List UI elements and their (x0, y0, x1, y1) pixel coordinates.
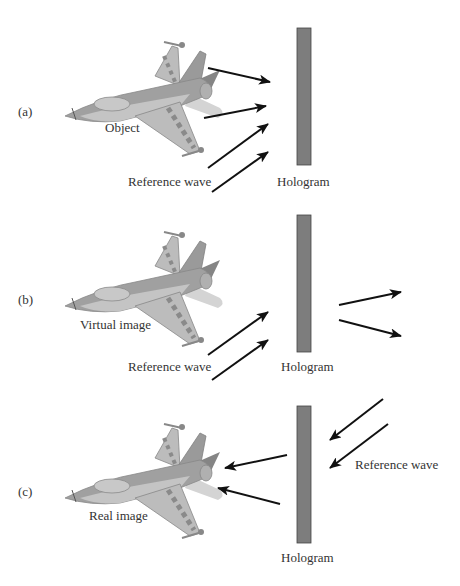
holography-diagram: (a) Object Reference wave Hologram (b) V… (0, 0, 460, 586)
reference-wave-label: Reference wave (128, 359, 212, 374)
object-airplane (65, 42, 223, 156)
hologram-plate (297, 215, 311, 352)
reference-wave-label: Reference wave (128, 174, 212, 189)
reference-wave-label: Reference wave (355, 457, 439, 472)
panel-tag: (a) (18, 104, 32, 119)
real-image-label: Real image (89, 508, 148, 523)
hologram-label: Hologram (277, 174, 330, 189)
diffracted-wave-arrows (339, 292, 401, 336)
reconstructed-wave-arrows (218, 455, 287, 504)
panel-c: (c) Real image Hologram Reference wave (18, 399, 439, 565)
virtual-image-label: Virtual image (80, 317, 151, 332)
hologram-plate (297, 28, 311, 165)
panel-b: (b) Virtual image Reference wave Hologra… (18, 215, 401, 380)
hologram-plate (297, 406, 311, 543)
object-label: Object (105, 120, 140, 135)
hologram-label: Hologram (281, 550, 334, 565)
panel-tag: (c) (18, 484, 32, 499)
panel-a: (a) Object Reference wave Hologram (18, 28, 330, 192)
hologram-label: Hologram (281, 359, 334, 374)
reference-wave-arrows (208, 312, 268, 380)
panel-tag: (b) (18, 292, 33, 307)
reference-wave-arrows (208, 124, 268, 192)
